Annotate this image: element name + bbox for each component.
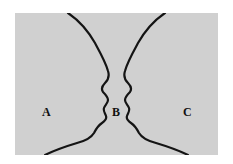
- face-profiles-drawing: [15, 13, 218, 155]
- ambiguous-figure-image: A B C: [0, 0, 233, 164]
- figure-panel: A B C: [15, 13, 218, 155]
- left-facing-profile-contour: [45, 13, 109, 155]
- region-label-b: B: [112, 106, 120, 118]
- region-label-c: C: [183, 106, 192, 118]
- region-label-a: A: [42, 106, 51, 118]
- right-facing-profile-contour: [124, 13, 188, 155]
